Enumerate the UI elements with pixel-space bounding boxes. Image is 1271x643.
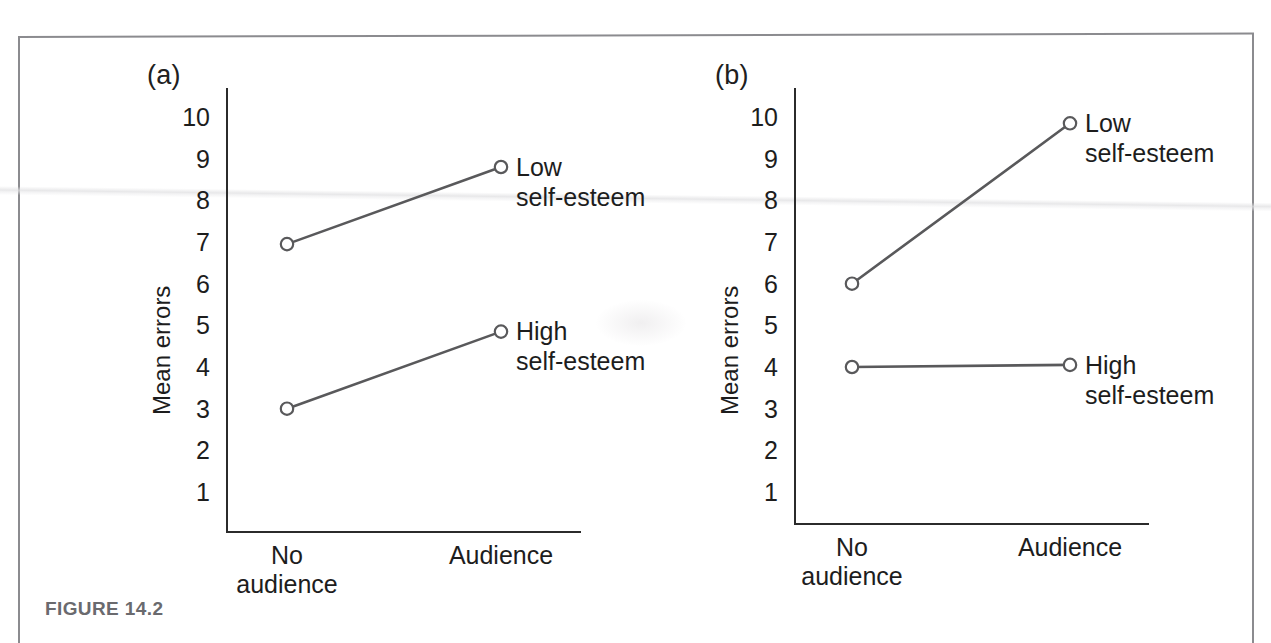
panel-b-high-self-esteem-line [852, 365, 1070, 367]
panel-a-low-point-no-audience [281, 238, 293, 250]
panel-b-low-self-esteem-line [852, 123, 1070, 283]
panel-a-low-self-esteem-line [287, 167, 501, 244]
panel-b-high-point-no-audience [846, 361, 858, 373]
chart-panel-b: (b) Mean errors 10 9 8 7 6 5 4 3 2 1 Low [688, 0, 1248, 600]
panel-a-high-label-line1: High [516, 316, 645, 346]
panel-a-high-point-no-audience [281, 403, 293, 415]
panel-a-high-point-audience [495, 325, 507, 337]
panel-a-high-self-esteem-label: High self-esteem [516, 316, 645, 376]
figure-frame-right-border [1252, 33, 1254, 643]
panel-a-high-self-esteem-line [287, 332, 501, 409]
panel-a-plot-area [120, 0, 680, 600]
panel-a-xtick-no-audience-line1: No [217, 541, 357, 570]
panel-a-low-label-line2: self-esteem [516, 182, 645, 212]
panel-b-xtick-no-audience-line1: No [782, 533, 922, 562]
panel-a-xtick-audience: Audience [431, 541, 571, 570]
panel-b-low-point-audience [1064, 117, 1076, 129]
figure-caption: FIGURE 14.2 [45, 598, 163, 620]
panel-b-high-self-esteem-label: High self-esteem [1085, 350, 1214, 410]
figure-container: (a) Mean errors 10 9 8 7 6 5 4 3 2 1 Low [0, 0, 1271, 643]
panel-b-low-self-esteem-label: Low self-esteem [1085, 108, 1214, 168]
chart-panel-a: (a) Mean errors 10 9 8 7 6 5 4 3 2 1 Low [120, 0, 680, 600]
panel-b-high-point-audience [1064, 359, 1076, 371]
panel-b-low-point-no-audience [846, 278, 858, 290]
panel-b-xtick-audience-line1: Audience [1000, 533, 1140, 562]
panel-b-plot-area [688, 0, 1248, 600]
panel-a-low-label-line1: Low [516, 152, 645, 182]
panel-a-xtick-no-audience: No audience [217, 541, 357, 598]
panel-b-xtick-no-audience: No audience [782, 533, 922, 590]
panel-a-xtick-no-audience-line2: audience [217, 570, 357, 599]
panel-b-xtick-audience: Audience [1000, 533, 1140, 562]
panel-b-low-label-line2: self-esteem [1085, 138, 1214, 168]
panel-a-low-point-audience [495, 161, 507, 173]
panel-b-low-label-line1: Low [1085, 108, 1214, 138]
figure-frame-left-border [18, 36, 20, 643]
panel-a-high-label-line2: self-esteem [516, 346, 645, 376]
panel-a-low-self-esteem-label: Low self-esteem [516, 152, 645, 212]
panel-a-xtick-audience-line1: Audience [431, 541, 571, 570]
panel-b-high-label-line1: High [1085, 350, 1214, 380]
panel-b-xtick-no-audience-line2: audience [782, 562, 922, 591]
panel-b-high-label-line2: self-esteem [1085, 380, 1214, 410]
